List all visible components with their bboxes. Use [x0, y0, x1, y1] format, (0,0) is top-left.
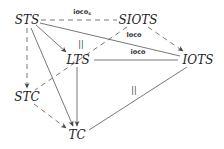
node-lts: LTS [66, 53, 89, 67]
label-loco-sts-iots: loco [126, 31, 141, 39]
label-ioco-s: iocos [73, 8, 91, 16]
label-ioco-s-text: ioco [73, 8, 88, 16]
relation-diagram: STS SIOTS LTS IOTS STC TC iocos loco ioc… [0, 0, 224, 149]
edge-sts-lts [36, 25, 66, 52]
node-tc: TC [68, 128, 85, 142]
node-sts: STS [15, 13, 39, 27]
edge-siots-iots [148, 27, 183, 51]
node-iots: IOTS [183, 53, 214, 67]
label-ioco-s-subscript: s [88, 11, 91, 16]
equality-mark-lts: || [78, 40, 83, 49]
node-stc: STC [14, 90, 39, 104]
node-siots: SIOTS [118, 13, 157, 27]
edge-sts-tc [31, 28, 73, 126]
edge-sts-iots [40, 23, 180, 56]
edge-iots-tc [89, 67, 187, 130]
edge-stc-tc [34, 104, 66, 128]
equality-mark-iots-tc: || [131, 86, 136, 95]
label-ioco-lts-iots: ioco [130, 48, 145, 56]
